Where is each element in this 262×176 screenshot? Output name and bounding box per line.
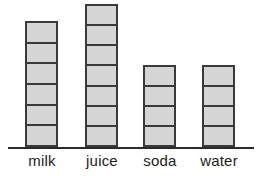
x-tick-label-juice: juice	[74, 150, 130, 172]
plot-area: milk juice soda water	[0, 0, 262, 176]
bar-segment	[27, 44, 56, 65]
bar-water	[202, 65, 235, 147]
bar-segment	[145, 107, 174, 127]
bar-segment	[27, 64, 56, 85]
bar-segment	[87, 66, 116, 86]
bar-segment	[87, 6, 116, 26]
bar-segment	[87, 107, 116, 127]
bar-segment	[27, 126, 56, 145]
bar-segment	[87, 87, 116, 107]
bar-segment	[204, 67, 233, 87]
bar-segment	[87, 26, 116, 46]
bar-segment	[204, 107, 233, 127]
bar-juice	[85, 4, 118, 147]
bar-segment	[145, 87, 174, 107]
bar-segment	[145, 67, 174, 87]
bar-segment	[27, 106, 56, 127]
bar-segment	[145, 127, 174, 145]
bar-milk	[25, 21, 58, 147]
bar-segment	[204, 127, 233, 145]
bar-segment	[204, 87, 233, 107]
bar-segment	[27, 23, 56, 44]
x-axis-tick-labels: milk juice soda water	[0, 150, 262, 176]
bar-segment	[87, 127, 116, 145]
bar-soda	[143, 65, 176, 147]
x-tick-label-water: water	[190, 150, 248, 172]
x-tick-label-soda: soda	[132, 150, 188, 172]
bar-chart: milk juice soda water	[0, 0, 262, 176]
x-axis-line	[8, 147, 254, 149]
x-tick-label-milk: milk	[15, 150, 69, 172]
bar-segment	[87, 46, 116, 66]
bar-segment	[27, 85, 56, 106]
